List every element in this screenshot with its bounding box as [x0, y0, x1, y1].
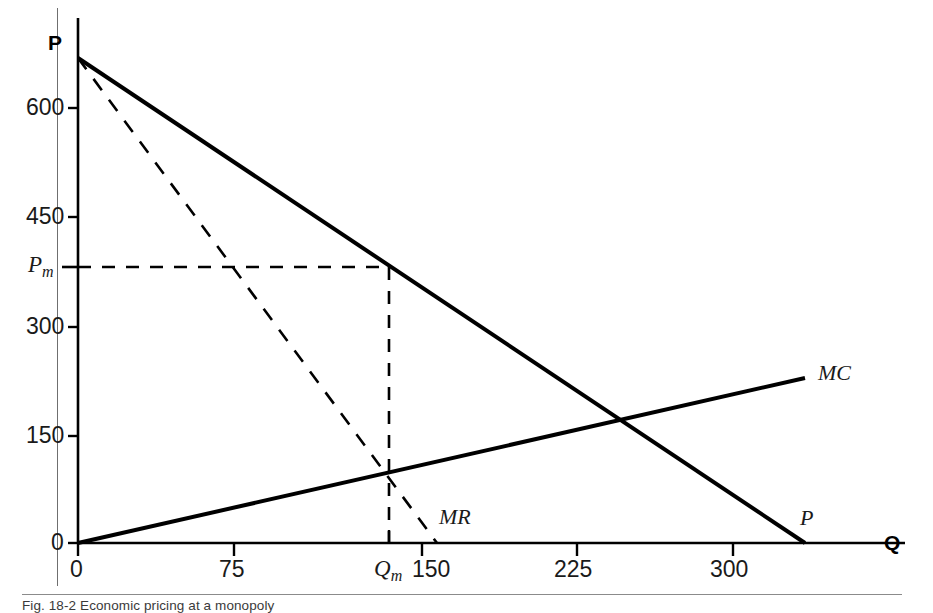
demand-curve [78, 58, 805, 543]
x-tick-label-150: 150 [412, 556, 450, 583]
pm-subscript: m [42, 263, 54, 280]
y-axis-ticks [68, 108, 78, 543]
qm-base: Q [374, 556, 391, 581]
y-tick-label-150: 150 [26, 422, 64, 449]
y-tick-label-300: 300 [26, 313, 64, 340]
caption-divider [22, 594, 902, 595]
demand-curve-label: P [800, 505, 813, 531]
x-tick-label-75: 75 [219, 556, 245, 583]
marginal-revenue-curve-label: MR [439, 504, 471, 530]
qm-subscript: m [391, 567, 403, 584]
qm-axis-label: Qm [374, 556, 402, 582]
x-tick-label-225: 225 [554, 556, 592, 583]
marginal-cost-curve-label: MC [818, 360, 851, 386]
pm-base: P [28, 252, 42, 277]
y-tick-label-0: 0 [51, 529, 64, 556]
y-tick-label-450: 450 [26, 203, 64, 230]
x-axis-title: Q [884, 531, 900, 555]
figure-caption: Fig. 18-2 Economic pricing at a monopoly [22, 598, 274, 613]
pm-axis-label: Pm [28, 252, 54, 278]
x-tick-label-300: 300 [710, 556, 748, 583]
marginal-revenue-curve [78, 58, 437, 543]
y-tick-label-600: 600 [26, 94, 64, 121]
y-axis-title: P [48, 31, 62, 55]
x-tick-label-0: 0 [70, 556, 83, 583]
